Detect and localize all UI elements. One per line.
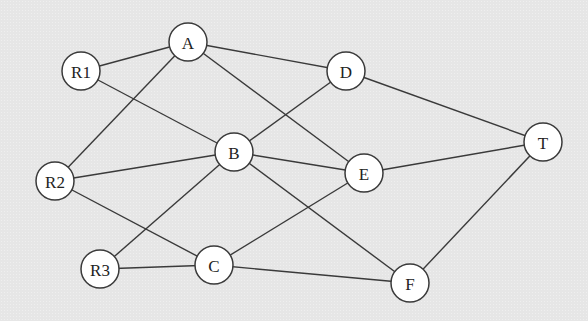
node-c: C [195,246,233,284]
edge-a-d [188,42,346,71]
edges-layer [55,42,543,283]
edge-r2-b [55,152,234,181]
node-a: A [169,23,207,61]
node-label: B [228,144,239,163]
network-diagram: AR1DBTR2ER3CF [0,0,588,321]
node-r1: R1 [62,52,100,90]
edge-d-b [234,71,346,152]
node-r3: R3 [81,250,119,288]
node-label: T [538,134,549,153]
node-label: F [405,275,414,294]
node-label: C [208,257,219,276]
edge-e-c [214,173,364,265]
node-r2: R2 [36,162,74,200]
edge-r2-c [55,181,214,265]
node-t: T [524,123,562,161]
node-b: B [215,133,253,171]
edge-d-t [346,71,543,142]
edge-e-t [364,142,543,173]
edge-c-f [214,265,410,283]
node-label: E [359,165,369,184]
node-label: A [182,34,195,53]
node-e: E [345,154,383,192]
node-label: D [340,63,352,82]
node-d: D [327,52,365,90]
edge-f-t [410,142,543,283]
node-label: R2 [45,173,65,192]
node-label: R1 [71,63,91,82]
edge-b-e [234,152,364,173]
node-f: F [391,264,429,302]
node-label: R3 [90,261,110,280]
edge-r1-b [81,71,234,152]
